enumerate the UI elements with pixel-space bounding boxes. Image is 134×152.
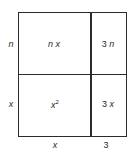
column-label-right: 3 — [103, 141, 108, 150]
cell-top-right: 3 n — [102, 40, 115, 49]
row-label-bottom: x — [9, 100, 14, 109]
cell-bottom-left-exponent: 2 — [56, 99, 59, 105]
column-label-right-value: 3 — [103, 140, 108, 150]
cell-bottom-right-coef: 3 — [102, 99, 107, 109]
cell-top-left: n x — [48, 40, 60, 49]
horizontal-divider — [18, 74, 127, 76]
cell-bottom-right: 3 x — [102, 100, 114, 109]
cell-bottom-right-var: x — [110, 99, 115, 109]
cell-bottom-left: x2 — [51, 99, 59, 110]
column-label-left: x — [53, 141, 58, 150]
cell-top-right-var: n — [109, 39, 114, 49]
row-label-top: n — [8, 40, 13, 49]
cell-top-right-coef: 3 — [102, 39, 107, 49]
